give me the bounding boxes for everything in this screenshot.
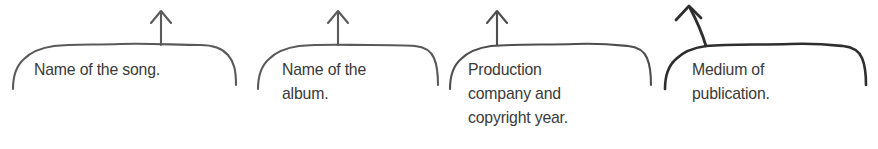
up-left-arrow-head-medium [676, 6, 701, 20]
callout-label-company: Production company and copyright year. [468, 58, 631, 130]
callout-label-song: Name of the song. [34, 58, 229, 82]
callout-label-medium: Medium of publication. [692, 58, 855, 106]
brace-callout-figure: Name of the song. Name of the album. Pro… [0, 0, 878, 149]
callout-label-album: Name of the album. [282, 58, 422, 106]
